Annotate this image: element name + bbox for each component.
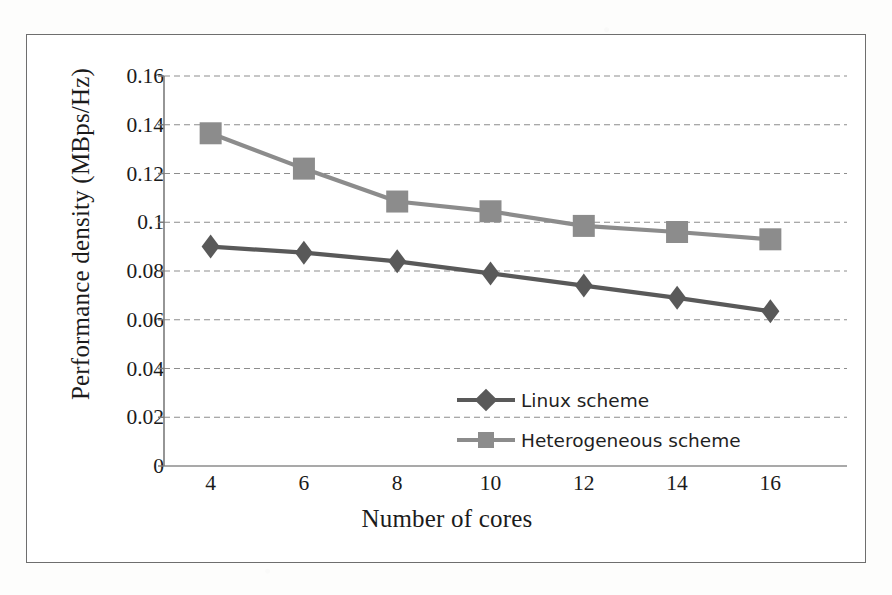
diamond-marker xyxy=(202,235,220,259)
diamond-marker xyxy=(668,286,686,310)
diamond-marker xyxy=(295,241,313,265)
plot-area xyxy=(27,35,867,564)
chart-legend: Linux scheme Heterogeneous scheme xyxy=(457,380,741,460)
legend-key-heterogeneous-scheme xyxy=(457,429,515,451)
square-marker xyxy=(200,122,222,144)
legend-label-linux-scheme: Linux scheme xyxy=(521,390,649,411)
square-marker xyxy=(573,215,595,237)
square-marker xyxy=(480,200,502,222)
legend-entry-heterogeneous-scheme: Heterogeneous scheme xyxy=(457,420,741,460)
line-chart: Performance density (MBps/Hz) Number of … xyxy=(27,35,867,564)
legend-key-linux-scheme xyxy=(457,389,515,411)
square-marker xyxy=(386,191,408,213)
figure-frame: Performance density (MBps/Hz) Number of … xyxy=(26,34,866,563)
diamond-marker xyxy=(575,274,593,298)
square-marker xyxy=(759,228,781,250)
legend-label-heterogeneous-scheme: Heterogeneous scheme xyxy=(521,430,741,451)
square-marker-icon xyxy=(478,432,494,448)
diamond-marker-icon xyxy=(475,389,498,412)
diamond-marker xyxy=(482,261,500,285)
square-marker xyxy=(293,158,315,180)
square-marker xyxy=(666,221,688,243)
legend-entry-linux-scheme: Linux scheme xyxy=(457,380,741,420)
diamond-marker xyxy=(388,249,406,273)
